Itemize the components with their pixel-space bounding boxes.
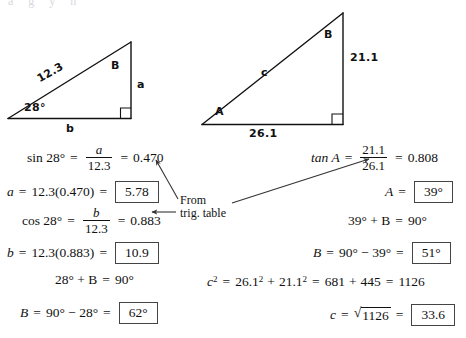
right-step1-denominator: 26.1 [360, 159, 387, 173]
right-step6-radical: √ 1126 [354, 306, 391, 324]
left-step1-fraction: a 12.3 [86, 143, 113, 173]
right-triangle-vertex-b-label: B [324, 28, 333, 41]
right-step1-eq2: = [390, 150, 408, 166]
right-step4-answer-box: 51° [412, 242, 451, 264]
right-step6-answer-box: 33.6 [411, 304, 455, 326]
left-step3-fn: cos 28° [22, 213, 62, 229]
right-step1-eq1: = [340, 150, 358, 166]
left-step6-var: B [20, 305, 28, 321]
left-step1-eq1: = [65, 150, 83, 166]
right-step3-rhs: 90° [408, 213, 427, 229]
right-step1-value: 0.808 [408, 150, 438, 166]
right-step2-var: A [385, 184, 393, 200]
left-step2-answer-box: 5.78 [115, 181, 159, 203]
right-step4-eq2: = [391, 245, 409, 261]
left-step2-eq1: = [14, 184, 32, 200]
right-step4-expr: 90° − 39° [339, 245, 391, 261]
left-triangle-angle-label: 28° [24, 101, 46, 114]
left-step4-answer-box: 10.9 [115, 242, 159, 264]
left-step5-lhs: 28° + B [55, 272, 97, 288]
left-step1-value: 0.470 [133, 150, 163, 166]
left-step3-numerator: b [91, 206, 102, 220]
left-step6-B: B = 90° − 28° = 62° [20, 302, 158, 324]
right-triangle-vertex-a-label: A [215, 105, 224, 118]
left-step2-eq2: = [94, 184, 112, 200]
left-step6-answer-box: 62° [119, 302, 158, 324]
left-step1-denominator: 12.3 [86, 159, 113, 173]
right-step2-A: A = 39° [385, 181, 453, 203]
left-step6-expr: 90° − 28° [46, 305, 98, 321]
left-step5-anglesum: 28° + B = 90° [55, 272, 134, 288]
left-triangle-side-a-label: a [137, 78, 145, 91]
left-step3-denominator: 12.3 [83, 222, 110, 236]
right-triangle-hypotenuse-label: c [261, 66, 268, 79]
right-step3-lhs: 39° + B [348, 213, 390, 229]
right-step5-square1: 681 [325, 274, 345, 290]
trig-table-annotation: From trig. table [180, 194, 226, 220]
left-step5-eq: = [97, 272, 115, 288]
right-step5-plus2: + [345, 274, 361, 290]
left-step2-a: a = 12.3(0.470) = 5.78 [7, 181, 159, 203]
right-step4-eq1: = [321, 245, 339, 261]
left-step3-cos: cos 28° = b 12.3 = 0.883 [22, 206, 161, 236]
left-step6-eq1: = [28, 305, 46, 321]
right-step3-eq: = [390, 213, 408, 229]
trig-table-annotation-line2: trig. table [180, 207, 226, 220]
left-step4-eq2: = [94, 245, 112, 261]
left-step1-fn: sin 28° [27, 150, 65, 166]
right-step5-term2: 21.1 [279, 274, 303, 290]
right-step3-anglesum: 39° + B = 90° [348, 213, 427, 229]
right-step2-answer-box: 39° [414, 181, 453, 203]
radical-sign-icon: √ [354, 306, 362, 324]
right-step6-radicand: 1126 [361, 307, 391, 324]
left-step4-eq1: = [14, 245, 32, 261]
right-step4-var: B [313, 245, 321, 261]
left-step6-eq2: = [98, 305, 116, 321]
right-step4-B: B = 90° − 39° = 51° [313, 242, 451, 264]
right-step6-eq2: = [391, 307, 409, 323]
left-step4-var: b [7, 245, 14, 261]
right-step5-eq3: = [381, 274, 399, 290]
left-step1-eq2: = [115, 150, 133, 166]
right-step5-eq2: = [307, 274, 325, 290]
left-triangle-vertex-b-label: B [111, 59, 120, 72]
left-step3-eq1: = [62, 213, 80, 229]
left-triangle-side-b-label: b [66, 122, 74, 135]
right-step5-pythagoras: c2 = 26.12 + 21.12 = 681 + 445 = 1126 [207, 274, 425, 290]
right-triangle-side-261-label: 26.1 [249, 127, 277, 140]
right-step5-square2: 445 [361, 274, 381, 290]
right-step1-tan: tan A = 21.1 26.1 = 0.808 [311, 143, 438, 173]
right-step5-total: 1126 [398, 274, 425, 290]
right-step1-fn: tan A [311, 150, 340, 166]
left-step3-fraction: b 12.3 [83, 206, 110, 236]
right-step5-plus1: + [263, 274, 279, 290]
right-step1-fraction: 21.1 26.1 [360, 143, 387, 173]
left-step3-eq2: = [113, 213, 131, 229]
left-step4-b: b = 12.3(0.883) = 10.9 [7, 242, 159, 264]
right-triangle-side-211-label: 21.1 [350, 51, 378, 64]
right-step1-numerator: 21.1 [360, 143, 387, 157]
left-step2-expr: 12.3(0.470) [31, 184, 94, 200]
left-triangle-right-angle-icon [121, 108, 132, 118]
right-step6-c: c = √ 1126 = 33.6 [330, 304, 455, 326]
right-step5-term1: 26.1 [235, 274, 259, 290]
left-step4-expr: 12.3(0.883) [31, 245, 94, 261]
right-step2-eq1: = [393, 184, 411, 200]
worksheet-canvas: a g y h 12.3 28° B a b c A [0, 0, 466, 338]
left-step2-var: a [7, 184, 14, 200]
left-step5-rhs: 90° [115, 272, 134, 288]
right-step5-eq1: = [218, 274, 236, 290]
left-step3-value: 0.883 [130, 213, 160, 229]
right-triangle-right-angle-icon [332, 114, 343, 124]
right-step6-eq1: = [336, 307, 354, 323]
left-step1-sin: sin 28° = a 12.3 = 0.470 [27, 143, 163, 173]
left-step1-numerator: a [94, 143, 105, 157]
